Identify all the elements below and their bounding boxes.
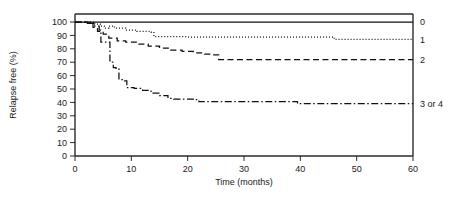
y-tick-label: 10 [57, 138, 67, 148]
series-label-3-or-4: 3 or 4 [420, 99, 443, 109]
series-labels: 0123 or 4 [420, 17, 443, 109]
relapse-free-survival-figure: 0102030405060708090100 0102030405060 012… [0, 0, 450, 201]
series-label-0: 0 [420, 17, 425, 27]
y-axis-title: Relapse free (%) [8, 51, 18, 119]
x-tick-label: 30 [239, 164, 249, 174]
y-tick-label: 90 [57, 31, 67, 41]
x-axis-ticks: 0102030405060 [72, 156, 418, 174]
chart-canvas: 0102030405060708090100 0102030405060 012… [0, 0, 450, 201]
series-label-2: 2 [420, 55, 425, 65]
y-tick-label: 30 [57, 111, 67, 121]
y-tick-label: 80 [57, 44, 67, 54]
survival-curves [75, 22, 413, 104]
y-tick-label: 40 [57, 98, 67, 108]
series-label-1: 1 [420, 35, 425, 45]
survival-curve-3-or-4 [75, 22, 413, 104]
axes-frame [75, 14, 413, 156]
x-tick-label: 50 [352, 164, 362, 174]
y-tick-label: 0 [62, 151, 67, 161]
x-axis-title: Time (months) [215, 177, 273, 187]
y-axis-ticks: 0102030405060708090100 [52, 17, 75, 161]
y-tick-label: 100 [52, 17, 67, 27]
survival-curve-1 [75, 22, 413, 39]
y-tick-label: 50 [57, 84, 67, 94]
x-tick-label: 10 [126, 164, 136, 174]
x-tick-label: 40 [295, 164, 305, 174]
y-tick-label: 20 [57, 124, 67, 134]
y-tick-label: 60 [57, 71, 67, 81]
y-tick-label: 70 [57, 57, 67, 67]
x-tick-label: 20 [183, 164, 193, 174]
x-tick-label: 0 [72, 164, 77, 174]
x-tick-label: 60 [408, 164, 418, 174]
